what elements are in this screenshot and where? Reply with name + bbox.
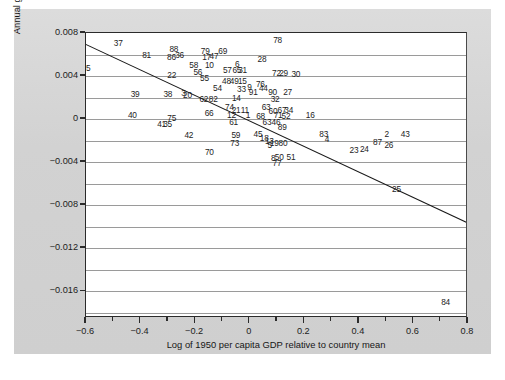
data-point-label: 70 xyxy=(205,148,214,156)
gridline xyxy=(86,227,466,228)
x-tick-label: −0.6 xyxy=(76,326,94,336)
y-tick-label: 0 xyxy=(73,113,78,123)
data-point-label: 40 xyxy=(128,111,137,119)
gridline xyxy=(86,205,466,206)
data-point-label: 38 xyxy=(163,90,172,98)
data-point-label: 52 xyxy=(282,112,291,120)
x-tick-label: 0.2 xyxy=(297,326,310,336)
data-point-label: 63 xyxy=(262,118,271,126)
data-point-label: 2 xyxy=(384,130,388,138)
data-point-label: 69 xyxy=(218,46,227,54)
data-point-label: 85 xyxy=(86,64,90,72)
data-point-label: 54 xyxy=(213,83,222,91)
x-tick-mark-major xyxy=(412,317,413,323)
gridline xyxy=(86,313,466,314)
y-tick-label: −0.016 xyxy=(50,285,78,295)
data-point-label: 31 xyxy=(238,66,247,74)
x-tick-mark-minor xyxy=(166,317,167,321)
data-point-label: 44 xyxy=(259,84,268,92)
figure-panel: Annual growth rate, 1950–1990 relative t… xyxy=(14,9,491,354)
data-point-label: 82 xyxy=(209,95,218,103)
data-point-label: 23 xyxy=(350,146,359,154)
x-tick-mark-major xyxy=(84,317,85,323)
x-tick-label: 0.4 xyxy=(351,326,364,336)
x-tick-label: 0.8 xyxy=(461,326,474,336)
plot-canvas: 3785818886367917476978285810622565765317… xyxy=(86,33,466,316)
gridline xyxy=(86,270,466,271)
data-point-label: 16 xyxy=(306,111,315,119)
data-point-label: 47 xyxy=(210,52,219,60)
data-point-label: 20 xyxy=(183,90,192,98)
data-point-label: 27 xyxy=(283,88,292,96)
y-axis-label: Annual growth rate, 1950–1990 relative t… xyxy=(10,0,24,60)
data-point-label: 1 xyxy=(246,110,250,118)
data-point-label: 87 xyxy=(373,138,382,146)
data-point-label: 24 xyxy=(360,145,369,153)
data-point-label: 28 xyxy=(258,55,267,63)
x-tick-mark-major xyxy=(357,317,358,323)
data-point-label: 84 xyxy=(441,298,450,306)
data-point-label: 36 xyxy=(175,51,184,59)
data-point-label: 10 xyxy=(205,61,214,69)
data-point-label: 19 xyxy=(270,139,279,147)
x-tick-mark-minor xyxy=(221,317,222,321)
x-tick-mark-major xyxy=(139,317,140,323)
plot-area: 3785818886367917476978285810622565765317… xyxy=(85,32,467,317)
x-tick-mark-major xyxy=(248,317,249,323)
data-point-label: 37 xyxy=(114,39,123,47)
gridline xyxy=(86,291,466,292)
x-tick-mark-minor xyxy=(330,317,331,321)
data-point-label: 43 xyxy=(401,130,410,138)
data-point-label: 39 xyxy=(131,89,140,97)
x-axis-label: Log of 1950 per capita GDP relative to c… xyxy=(85,339,467,350)
data-point-label: 73 xyxy=(230,139,239,147)
data-point-label: 30 xyxy=(291,70,300,78)
data-point-label: 66 xyxy=(205,109,214,117)
data-point-label: 80 xyxy=(279,139,288,147)
x-tick-mark-major xyxy=(303,317,304,323)
data-point-label: 26 xyxy=(384,140,393,148)
data-point-label: 51 xyxy=(286,153,295,161)
data-point-label: 61 xyxy=(229,118,238,126)
x-tick-mark-minor xyxy=(439,317,440,321)
data-point-label: 78 xyxy=(273,36,282,44)
gridline xyxy=(86,248,466,249)
y-tick-label: −0.004 xyxy=(50,156,78,166)
data-point-label: 32 xyxy=(271,95,280,103)
y-tick-label: 0.004 xyxy=(55,70,78,80)
data-point-label: 77 xyxy=(273,159,282,167)
data-point-label: 29 xyxy=(279,69,288,77)
data-point-label: 42 xyxy=(184,131,193,139)
y-tick-label: 0.008 xyxy=(55,27,78,37)
x-tick-label: 0 xyxy=(246,326,251,336)
x-tick-mark-major xyxy=(466,317,467,323)
data-point-label: 22 xyxy=(167,71,176,79)
data-point-label: 35 xyxy=(163,120,172,128)
x-tick-label: −0.4 xyxy=(130,326,148,336)
gridline xyxy=(86,184,466,185)
data-point-label: 57 xyxy=(223,66,232,74)
data-point-label: 62 xyxy=(199,95,208,103)
x-tick-label: 0.6 xyxy=(406,326,419,336)
x-tick-mark-minor xyxy=(112,317,113,321)
data-point-label: 91 xyxy=(249,88,258,96)
x-tick-label: −0.2 xyxy=(185,326,203,336)
x-tick-mark-major xyxy=(194,317,195,323)
data-point-label: 33 xyxy=(237,84,246,92)
data-point-label: 55 xyxy=(200,74,209,82)
data-point-label: 89 xyxy=(278,123,287,131)
data-point-label: 25 xyxy=(392,185,401,193)
data-point-label: 4 xyxy=(325,135,329,143)
y-tick-label: −0.012 xyxy=(50,242,78,252)
x-tick-mark-minor xyxy=(385,317,386,321)
data-point-label: 81 xyxy=(142,51,151,59)
x-tick-mark-minor xyxy=(275,317,276,321)
y-tick-label: −0.008 xyxy=(50,199,78,209)
